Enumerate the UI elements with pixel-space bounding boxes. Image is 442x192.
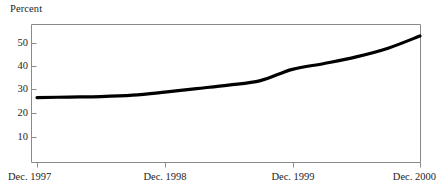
x-tick-label-dec-1998: Dec. 1998 — [133, 171, 197, 182]
y-tick-label-40: 40 — [6, 60, 28, 71]
x-tick-label-dec-1999: Dec. 1999 — [261, 171, 325, 182]
x-axis-ticks — [38, 163, 421, 168]
data-line-percent — [37, 36, 420, 98]
y-tick-label-30: 30 — [6, 83, 28, 94]
plot-frame — [32, 25, 421, 163]
y-tick-label-20: 20 — [6, 107, 28, 118]
x-tick-label-dec-1997: Dec. 1997 — [8, 171, 72, 182]
line-chart: Percent 50 40 30 20 10 Dec. 19 — [0, 0, 442, 192]
y-tick-label-50: 50 — [6, 37, 28, 48]
x-tick-label-dec-2000: Dec. 2000 — [372, 171, 436, 182]
y-tick-label-10: 10 — [6, 131, 28, 142]
plot-area — [0, 0, 442, 192]
y-axis-ticks — [32, 44, 37, 138]
